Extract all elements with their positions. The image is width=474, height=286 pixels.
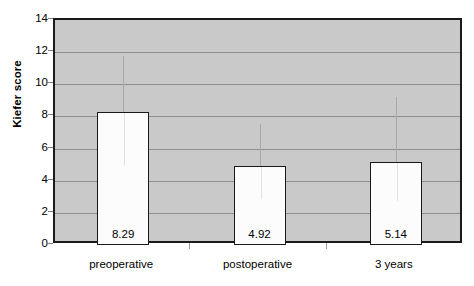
y-tick-mark [48,243,53,244]
error-bar-lower [124,113,125,167]
y-tick-label: 12 [24,45,48,56]
kiefer-score-bar-chart: Kiefer score 02468101214 8.294.925.14 pr… [0,0,474,286]
y-tick-label: 4 [24,173,48,184]
plot-area: 8.294.925.14 [53,18,462,243]
y-tick-label: 14 [24,13,48,24]
error-bar-upper [123,56,124,112]
error-bar-upper [260,124,261,166]
bar: 8.29 [97,112,149,245]
gridline [55,84,460,85]
y-tick-label: 2 [24,205,48,216]
x-category-label: postoperative [223,258,292,270]
y-tick-label: 0 [24,238,48,249]
y-tick-label: 8 [24,109,48,120]
y-tick-label: 6 [24,141,48,152]
bar-value-label: 4.92 [235,228,285,240]
y-tick-label: 10 [24,77,48,88]
y-axis-tick-labels: 02468101214 [24,0,48,286]
bar-value-label: 5.14 [371,228,421,240]
bar-value-label: 8.29 [98,228,148,240]
gridline [55,52,460,53]
x-tick-mark [326,243,327,249]
x-tick-mark [189,243,190,249]
bar: 4.92 [234,166,286,245]
error-bar-upper [396,97,397,162]
x-category-label: preoperative [89,258,153,270]
error-bar-lower [261,167,262,199]
x-category-label: 3 years [375,258,413,270]
plot-inner: 8.294.925.14 [55,20,460,241]
bar: 5.14 [370,162,422,245]
error-bar-lower [397,163,398,201]
y-axis-title: Kiefer score [11,29,23,159]
